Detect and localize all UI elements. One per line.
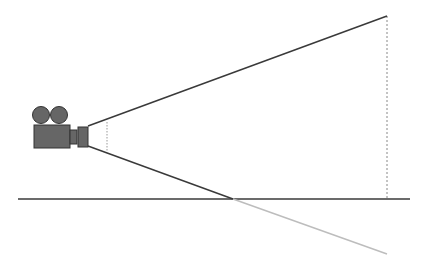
camera-fov-diagram <box>0 0 429 269</box>
